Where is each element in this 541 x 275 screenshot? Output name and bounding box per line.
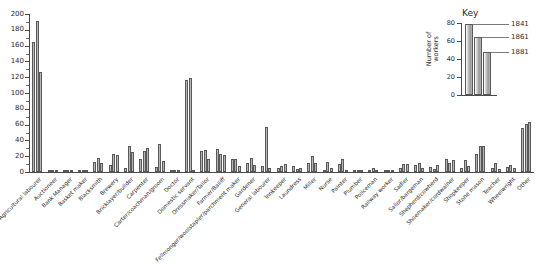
key-tick-label: 80 [442, 20, 455, 27]
key-callout-line [491, 52, 509, 53]
key-tick-label: 40 [442, 56, 455, 63]
key-callout-line [482, 37, 509, 38]
key-bar [465, 24, 473, 95]
key-series-label: 1881 [511, 48, 529, 56]
key-tick-label: 0 [442, 92, 455, 99]
key-callout-line [473, 24, 509, 25]
key-tick-label: 20 [442, 74, 455, 81]
key-bars [465, 23, 495, 95]
key-tick-mark [457, 77, 461, 78]
key-tick-mark [457, 23, 461, 24]
x-axis-label: Other [516, 176, 531, 191]
key-bar [474, 37, 482, 95]
key-title: Key [462, 8, 478, 18]
key-axis-title: Number of workers [426, 19, 440, 79]
key-bar [483, 52, 491, 95]
key-tick-mark [457, 59, 461, 60]
key-series-label: 1841 [511, 20, 529, 28]
key-x-axis-line [461, 95, 497, 96]
key-tick-label: 60 [442, 38, 455, 45]
key-tick-mark [457, 41, 461, 42]
occupations-bar-chart: 020406080100120140160180200 Agricultural… [0, 0, 541, 275]
key-series-label: 1861 [511, 33, 529, 41]
key-y-axis-line [461, 23, 462, 95]
chart-key: Key Number of workers 020406080 18411861… [424, 4, 538, 108]
x-axis-label: Miller [303, 176, 318, 191]
key-tick-mark [457, 95, 461, 96]
